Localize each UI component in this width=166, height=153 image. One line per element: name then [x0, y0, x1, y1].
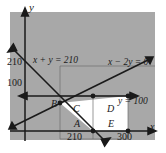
x-axis-label: x [150, 122, 154, 132]
x-tick-300: 300 [117, 132, 132, 142]
x-tick-210: 210 [67, 132, 82, 142]
y-tick-100: 100 [7, 78, 22, 88]
vertex-label-d: D [107, 104, 114, 114]
coordinate-plot [0, 0, 166, 153]
label-line-y-equals-100: y = 100 [118, 97, 148, 107]
vertex-label-c: C [73, 104, 80, 114]
point-b [58, 101, 63, 106]
y-axis-label: y [29, 2, 34, 13]
point-c [91, 94, 96, 99]
point-a [91, 129, 96, 134]
graph-figure: y x 210 100 210 300 x + y = 210 x − 2y =… [0, 0, 166, 153]
vertex-label-e: E [108, 119, 114, 129]
vertex-label-b: B [51, 99, 57, 109]
y-tick-210: 210 [7, 57, 22, 67]
vertex-label-a: A [74, 119, 80, 129]
label-line-x-plus-y-210: x + y = 210 [33, 56, 78, 66]
label-line-x-minus-2y-0: x − 2y = 0 [108, 58, 148, 68]
